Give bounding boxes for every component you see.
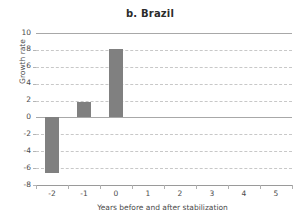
bar <box>45 117 60 173</box>
y-tick-label: -6 <box>24 163 31 172</box>
x-tick-mark <box>68 185 69 189</box>
x-tick-label: 0 <box>114 189 119 198</box>
y-tick-label: 6 <box>26 61 31 70</box>
x-tick-label: 3 <box>210 189 215 198</box>
x-tick-label: -2 <box>48 189 55 198</box>
y-tick-label: -8 <box>24 180 31 189</box>
x-tick-mark <box>196 185 197 189</box>
x-tick-mark <box>36 185 37 189</box>
bars-layer <box>36 33 292 185</box>
x-tick-mark <box>228 185 229 189</box>
y-tick-label: -2 <box>24 129 31 138</box>
y-tick-label: -4 <box>24 146 31 155</box>
bar <box>109 49 124 117</box>
chart-title: b. Brazil <box>0 8 300 19</box>
x-tick-mark <box>100 185 101 189</box>
y-tick-label: 8 <box>26 44 31 53</box>
bar-chart-figure: b. Brazil Growth rate 1086420-2-4-6-8 -2… <box>0 0 300 224</box>
x-tick-mark <box>292 185 293 189</box>
y-tick-label: 0 <box>26 112 31 121</box>
x-tick-label: -1 <box>80 189 87 198</box>
y-tick-label: 2 <box>26 95 31 104</box>
bar <box>77 102 92 118</box>
x-tick-mark <box>260 185 261 189</box>
x-tick-label: 1 <box>146 189 151 198</box>
plot-area: 1086420-2-4-6-8 <box>36 33 292 185</box>
x-tick-mark <box>164 185 165 189</box>
x-tick-mark <box>132 185 133 189</box>
y-tick-label: 4 <box>26 78 31 87</box>
y-tick-label: 10 <box>21 28 31 37</box>
x-axis-title: Years before and after stabilization <box>30 203 295 212</box>
x-tick-label: 5 <box>274 189 279 198</box>
y-axis-title: Growth rate <box>18 2 27 122</box>
x-tick-label: 2 <box>178 189 183 198</box>
x-tick-label: 4 <box>242 189 247 198</box>
